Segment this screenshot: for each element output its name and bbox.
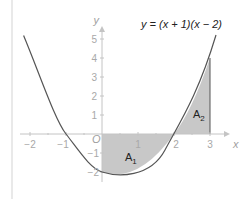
x-tick-label: 2 bbox=[173, 139, 179, 150]
x-tick-label: −2 bbox=[24, 139, 36, 150]
y-tick-label: 1 bbox=[91, 110, 97, 121]
y-axis-arrow-icon bbox=[99, 26, 105, 32]
x-axis-arrow-icon bbox=[224, 131, 230, 137]
x-tick-label: −1 bbox=[57, 139, 69, 150]
y-tick-label: 4 bbox=[91, 53, 97, 64]
y-tick-label: 3 bbox=[91, 72, 97, 83]
x-tick-label: 3 bbox=[207, 139, 213, 150]
y-tick-label: −2 bbox=[88, 167, 100, 178]
y-tick-label: −1 bbox=[88, 148, 100, 159]
y-axis-label: y bbox=[93, 14, 101, 26]
y-tick-label: 2 bbox=[91, 91, 97, 102]
x-axis-label: x bbox=[232, 138, 239, 150]
x-tick-label: 1 bbox=[135, 139, 141, 150]
equation-label: y = (x + 1)(x − 2) bbox=[140, 18, 222, 30]
origin-label: O bbox=[92, 133, 101, 145]
graph: −2 −1 1 2 3 5 4 3 2 1 −1 −2 O y x y = (x… bbox=[0, 0, 246, 199]
y-tick-label: 5 bbox=[91, 34, 97, 45]
